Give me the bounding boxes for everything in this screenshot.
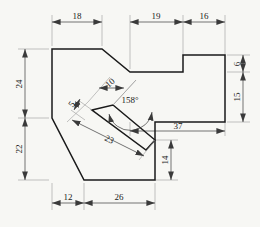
dim-18: 18	[73, 11, 83, 21]
dimension-labels: 18 19 16 24 22 12 26 6 15 37 14 10 5 23 …	[14, 11, 242, 202]
dim-24: 24	[14, 79, 24, 89]
technical-drawing-canvas: 18 19 16 24 22 12 26 6 15 37 14 10 5 23 …	[0, 0, 260, 227]
dim-19: 19	[152, 11, 162, 21]
dim-14: 14	[160, 155, 170, 165]
angled-slot	[92, 105, 155, 150]
dim-23: 23	[103, 133, 116, 146]
dim-26: 26	[115, 192, 125, 202]
part-outline	[52, 49, 225, 180]
dim-10: 10	[103, 76, 117, 90]
dim-16: 16	[200, 11, 210, 21]
dim-158-deg: 158°	[121, 95, 139, 105]
dim-22: 22	[14, 145, 24, 154]
dim-12: 12	[64, 192, 73, 202]
dim-15: 15	[232, 92, 242, 102]
dim-6: 6	[232, 61, 242, 66]
dim-37: 37	[174, 121, 184, 131]
